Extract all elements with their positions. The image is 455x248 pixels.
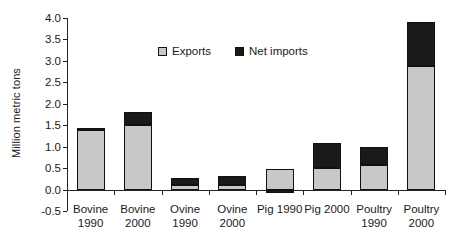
y-axis-tick-label: 0.5 [45, 162, 61, 174]
y-axis-tick-label: 2.0 [45, 98, 61, 110]
x-axis-label-line1: Bovine [120, 203, 155, 215]
bar-segment-net-imports [124, 112, 152, 125]
bar-segment-net-imports [171, 178, 199, 184]
x-axis-tick-mark [398, 190, 399, 195]
x-axis-tick-mark [162, 190, 163, 195]
bar-group [360, 18, 388, 211]
x-axis-tick-mark [445, 190, 446, 195]
x-axis-tick-mark [67, 190, 68, 195]
legend-item-net-imports: Net imports [235, 45, 308, 57]
bar-segment-net-imports [218, 176, 246, 185]
x-axis-label-line1: Pig 2000 [304, 203, 349, 215]
x-axis-label-line1: Ovine [217, 203, 247, 215]
bar-segment-exports [171, 185, 199, 190]
x-axis-label-line2: 2000 [392, 216, 451, 230]
y-axis-tick-mark [63, 147, 67, 148]
x-axis-tick-mark [256, 190, 257, 195]
x-axis-label-line2: 2000 [203, 216, 262, 230]
bar-group [124, 18, 152, 211]
y-axis-tick-label: 4.0 [45, 12, 61, 24]
y-axis-tick-mark [63, 168, 67, 169]
bar-segment-exports [266, 169, 294, 190]
x-axis-label-line1: Ovine [170, 203, 200, 215]
y-axis-tick-label: 3.0 [45, 55, 61, 67]
chart-legend: Exports Net imports [158, 45, 308, 57]
bar-segment-exports [124, 125, 152, 189]
legend-swatch-net-imports-icon [235, 47, 244, 56]
y-axis-line [67, 18, 68, 211]
bar-segment-exports [407, 66, 435, 190]
x-axis-tick-mark [114, 190, 115, 195]
legend-item-exports: Exports [158, 45, 211, 57]
bar-group [407, 18, 435, 211]
y-axis-tick-label: 0.0 [45, 184, 61, 196]
chart-container: Million metric tons 4.03.53.02.52.01.51.… [0, 0, 455, 248]
y-axis-tick-mark [63, 39, 67, 40]
y-axis-tick-label: 1.0 [45, 141, 61, 153]
x-axis-label-line1: Bovine [73, 203, 108, 215]
x-axis-label-line1: Poultry [356, 203, 392, 215]
y-axis-tick-label: 1.5 [45, 119, 61, 131]
bar-group [313, 18, 341, 211]
bar-segment-exports [360, 165, 388, 190]
y-axis-tick-mark [63, 18, 67, 19]
x-axis-label-line1: Pig 1990 [257, 203, 302, 215]
y-axis-title: Million metric tons [10, 33, 28, 193]
legend-swatch-exports-icon [158, 47, 167, 56]
y-axis-tick-label: -0.5 [41, 205, 61, 217]
legend-label-exports: Exports [172, 45, 211, 57]
y-axis-tick-mark [63, 125, 67, 126]
legend-label-net-imports: Net imports [249, 45, 308, 57]
y-axis-tick-mark [63, 61, 67, 62]
x-axis-label: Poultry2000 [392, 202, 451, 230]
bar-group [77, 18, 105, 211]
y-axis-tick-mark [63, 104, 67, 105]
bar-segment-exports [313, 168, 341, 189]
bar-segment-exports [218, 185, 246, 190]
x-axis-tick-mark [351, 190, 352, 195]
x-axis-label-line1: Poultry [403, 203, 439, 215]
x-axis-tick-mark [209, 190, 210, 195]
bar-segment-net-imports [266, 190, 294, 194]
bar-segment-net-imports [360, 147, 388, 165]
bar-segment-net-imports [313, 143, 341, 168]
bar-segment-net-imports [77, 128, 105, 131]
y-axis-tick-mark [63, 82, 67, 83]
bar-segment-exports [77, 130, 105, 189]
y-axis-tick-label: 3.5 [45, 33, 61, 45]
x-axis-tick-mark [303, 190, 304, 195]
bar-segment-net-imports [407, 22, 435, 66]
y-axis-tick-label: 2.5 [45, 76, 61, 88]
